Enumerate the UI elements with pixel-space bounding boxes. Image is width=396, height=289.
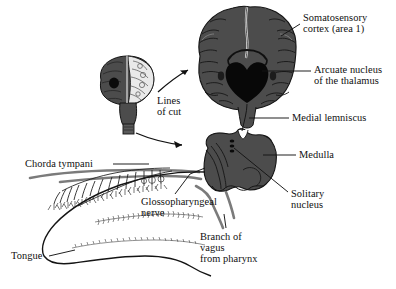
label-chorda-tympani: Chorda tympani — [25, 158, 93, 169]
label-lines-of-cut: Lines — [157, 95, 180, 106]
solitary-nucleus-dots — [230, 140, 235, 153]
figure-artwork — [0, 0, 396, 289]
label-tongue: Tongue — [11, 250, 42, 261]
medulla-section — [204, 129, 276, 192]
label-somatosensory-cortex-line2: cortex (area 1) — [303, 23, 364, 34]
label-lines-of-cut-line2: of cut — [157, 106, 181, 117]
label-solitary-nucleus: Solitary — [291, 188, 324, 199]
cut-line-arrow-lower — [136, 133, 182, 148]
cut-line-arrow-upper — [158, 70, 188, 92]
label-arcuate-nucleus-line2: of the thalamus — [314, 75, 379, 86]
label-glossopharyngeal-nerve: Glossopharyngeal — [141, 196, 217, 207]
label-somatosensory-cortex: Somatosensory — [303, 12, 367, 23]
tongue-papillae — [72, 211, 205, 248]
whole-brain-inset — [100, 56, 153, 134]
label-medulla: Medulla — [299, 149, 334, 160]
label-branch-of-vagus-line3: from pharynx — [200, 253, 257, 264]
taste-pathway-figure: Somatosensory cortex (area 1) Arcuate nu… — [0, 0, 396, 289]
tongue-outline — [42, 172, 211, 276]
label-solitary-nucleus-line2: nucleus — [291, 199, 323, 210]
label-branch-of-vagus: Branch of — [200, 231, 242, 242]
label-glossopharyngeal-nerve-line2: nerve — [141, 207, 164, 218]
coronal-brain-section — [199, 6, 296, 128]
label-branch-of-vagus-line2: vagus — [200, 242, 225, 253]
label-arcuate-nucleus: Arcuate nucleus — [314, 64, 382, 75]
label-medial-lemniscus: Medial lemniscus — [292, 112, 366, 123]
